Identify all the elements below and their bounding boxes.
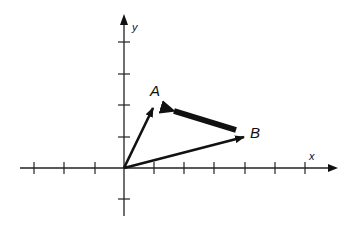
- y-axis-label: y: [132, 22, 138, 33]
- point-a-label: A: [150, 83, 160, 98]
- x-axis-label: x: [309, 151, 315, 162]
- vector-diagram: [0, 0, 354, 229]
- y-axis-arrow-icon: [120, 14, 128, 25]
- x-axis: [20, 162, 338, 174]
- point-b-label: B: [250, 125, 260, 140]
- y-axis: [118, 14, 130, 216]
- vector-ba: [174, 111, 236, 130]
- x-axis-arrow-icon: [328, 164, 338, 172]
- vector-oa: [124, 108, 153, 168]
